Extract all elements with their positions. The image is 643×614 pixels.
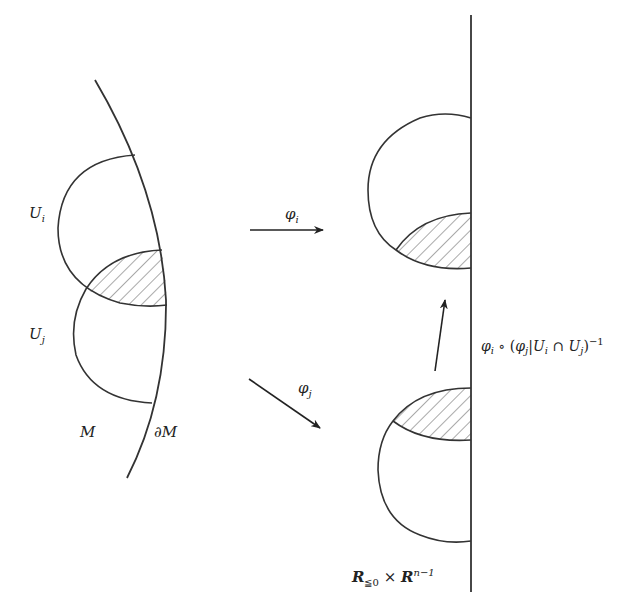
diagram-canvas (0, 0, 643, 614)
right-halfspace (368, 15, 471, 592)
overlap-hatch-lower (393, 388, 471, 440)
label-phi-j: φj (298, 381, 312, 399)
label-boundary: ∂M (154, 425, 177, 440)
label-transition-map: φi ∘ (φj|Ui ∩ Uj)−1 (481, 337, 604, 356)
label-ui: Ui (29, 206, 45, 224)
label-manifold-m: M (80, 425, 95, 440)
left-manifold (58, 80, 167, 478)
label-phi-i: φi (285, 207, 299, 225)
label-uj: Uj (29, 327, 45, 345)
overlap-hatch-left (86, 250, 167, 306)
overlap-hatch-upper (396, 213, 471, 269)
arrow-transition (435, 300, 445, 371)
label-halfspace: R≦0 × Rn−1 (352, 568, 435, 588)
